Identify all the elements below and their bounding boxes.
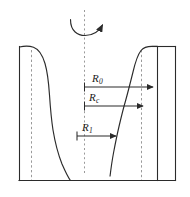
r-outer-label-subscript: 0	[99, 77, 103, 86]
r-inner-label-subscript: 1	[89, 126, 93, 135]
r-critical-label-subscript: c	[96, 96, 99, 105]
r-outer-label: R0	[92, 73, 103, 86]
dashed-reference-lines	[32, 50, 142, 180]
r-outer-label-base: R	[92, 72, 99, 84]
r-inner-label: R1	[82, 122, 93, 135]
r-critical-label: Rc	[89, 92, 99, 105]
rotation-direction-arrow	[71, 20, 103, 36]
r-inner-label-base: R	[82, 121, 89, 133]
rotating-vessel-diagram: R0 Rc R1	[0, 0, 190, 197]
r-critical-label-base: R	[89, 91, 96, 103]
free-surface-profile-left	[20, 46, 71, 180]
free-surface-profile-right	[110, 46, 158, 176]
vessel-container-outline	[19, 47, 176, 181]
